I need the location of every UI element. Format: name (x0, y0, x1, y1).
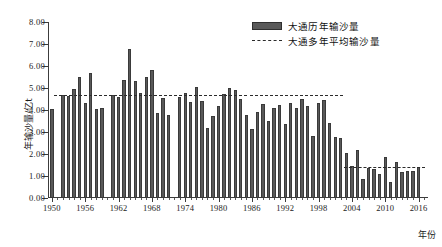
x-axis-minor-tick (91, 198, 92, 200)
x-axis-minor-tick (307, 198, 308, 200)
x-axis-tick (152, 198, 153, 202)
bar (178, 97, 181, 198)
bar (184, 93, 187, 198)
x-axis-minor-tick (180, 198, 181, 200)
x-axis-tick-label: 1950 (43, 203, 61, 213)
bar (322, 100, 325, 198)
x-axis-minor-tick (135, 198, 136, 200)
x-axis-minor-tick (163, 198, 164, 200)
bar (150, 70, 153, 198)
bar (206, 128, 209, 198)
x-axis-tick (252, 198, 253, 202)
y-axis-tick-label: 3.00 (29, 127, 45, 137)
x-axis-minor-tick (207, 198, 208, 200)
average-line (54, 95, 248, 96)
x-axis-minor-tick (146, 198, 147, 200)
x-axis-minor-tick (124, 198, 125, 200)
legend-item: 大通历年输沙量 (252, 18, 380, 33)
bar (95, 109, 98, 198)
bar (211, 116, 214, 198)
bar (317, 103, 320, 198)
bar (295, 108, 298, 198)
x-axis-tick-label: 1974 (176, 203, 194, 213)
x-axis-tick (219, 198, 220, 202)
x-axis-minor-tick (241, 198, 242, 200)
x-axis-tick-label: 1980 (210, 203, 228, 213)
x-axis-tick (285, 198, 286, 202)
x-axis-minor-tick (235, 198, 236, 200)
average-line (344, 167, 425, 168)
bar (350, 166, 353, 198)
x-axis-minor-tick (380, 198, 381, 200)
x-axis-minor-tick (196, 198, 197, 200)
x-axis-minor-tick (202, 198, 203, 200)
y-axis-tick-label: 4.00 (29, 105, 45, 115)
x-axis-minor-tick (63, 198, 64, 200)
x-axis-tick-label: 2010 (376, 203, 394, 213)
x-axis-minor-tick (335, 198, 336, 200)
bar (239, 99, 242, 198)
x-axis-minor-tick (269, 198, 270, 200)
bar (222, 94, 225, 199)
bar (361, 179, 364, 198)
x-axis-minor-tick (96, 198, 97, 200)
x-axis-minor-tick (157, 198, 158, 200)
chart-root: 年输沙量/亿t 0.001.002.003.004.005.006.007.00… (0, 0, 442, 247)
bar (200, 101, 203, 198)
bar (195, 87, 198, 198)
x-axis-minor-tick (369, 198, 370, 200)
x-axis-minor-tick (280, 198, 281, 200)
x-axis-minor-tick (346, 198, 347, 200)
x-axis-minor-tick (391, 198, 392, 200)
x-axis-tick-label: 1956 (76, 203, 94, 213)
bar (389, 182, 392, 198)
bar (128, 49, 131, 198)
x-axis-minor-tick (141, 198, 142, 200)
bar (417, 167, 420, 198)
bar (384, 157, 387, 198)
bar (289, 103, 292, 198)
x-axis-tick-label: 2016 (410, 203, 428, 213)
bar (406, 171, 409, 199)
plot-area: 0.001.002.003.004.005.006.007.008.00 195… (48, 22, 428, 198)
x-axis-minor-tick (413, 198, 414, 200)
legend-item-label: 大通多年平均输沙量 (288, 34, 380, 48)
x-axis-minor-tick (174, 198, 175, 200)
y-axis-tick-label: 5.00 (29, 83, 45, 93)
bar (306, 106, 309, 198)
y-axis-tick-label: 6.00 (29, 61, 45, 71)
chart-legend: 大通历年输沙量大通多年平均输沙量 (252, 18, 380, 48)
bar (372, 169, 375, 198)
x-axis-title: 年份 (418, 228, 436, 241)
y-axis-tick-label: 1.00 (29, 171, 45, 181)
bar (167, 115, 170, 198)
x-axis-tick (119, 198, 120, 202)
bar (189, 102, 192, 198)
bar (134, 81, 137, 198)
bar (234, 90, 237, 198)
bar (284, 124, 287, 198)
x-axis-minor-tick (407, 198, 408, 200)
bar (139, 93, 142, 198)
bar (61, 95, 64, 198)
x-axis-minor-tick (213, 198, 214, 200)
x-axis-minor-tick (274, 198, 275, 200)
bar (267, 121, 270, 198)
bar (117, 97, 120, 198)
x-axis-minor-tick (302, 198, 303, 200)
legend-bar-swatch (252, 22, 282, 30)
bar (278, 105, 281, 198)
bar (356, 150, 359, 198)
average-line (250, 95, 343, 96)
x-axis-minor-tick (374, 198, 375, 200)
x-axis-minor-tick (402, 198, 403, 200)
bar (161, 98, 164, 198)
bar (339, 138, 342, 199)
x-axis-tick (419, 198, 420, 202)
bar (122, 80, 125, 198)
x-axis-tick (52, 198, 53, 202)
bar (334, 137, 337, 198)
bar (328, 123, 331, 198)
x-axis-tick (352, 198, 353, 202)
x-axis-minor-tick (74, 198, 75, 200)
